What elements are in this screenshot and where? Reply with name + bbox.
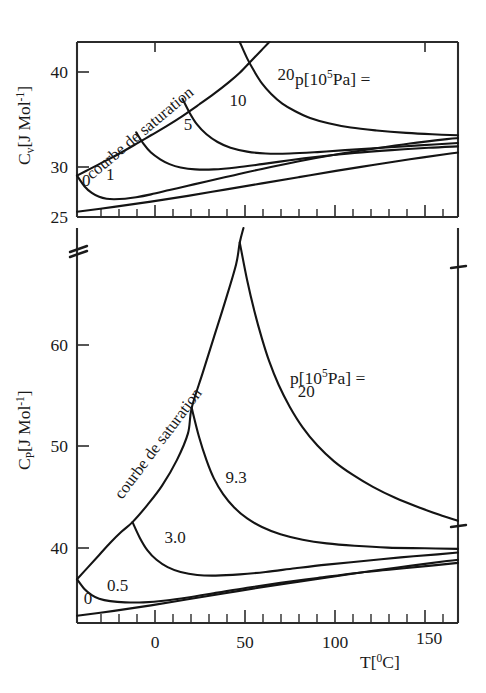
curve-top-p10	[182, 99, 458, 154]
thermodynamics-cv-cp-chart: 40 30 25	[0, 0, 486, 693]
axis-break-icon-right-2	[451, 525, 466, 527]
curve-label-top-10: 10	[229, 91, 246, 110]
xlabel-post: C]	[382, 652, 400, 672]
bottom-xtick-label-100: 100	[322, 632, 349, 652]
bottom-ylabel-base: C	[14, 458, 34, 470]
svg-text:Cv[J Mol-1]: Cv[J Mol-1]	[14, 86, 36, 165]
top-ytick-label-40: 40	[51, 62, 69, 82]
bottom-xtick-label-50: 50	[236, 632, 254, 652]
top-panel-xticks	[101, 205, 443, 217]
figure-root: 40 30 25	[0, 0, 486, 693]
bottom-ytick-label-50: 50	[51, 436, 69, 456]
bottom-xtick-label-0: 0	[151, 632, 160, 652]
top-ylabel-sup: -1	[14, 92, 26, 102]
top-ylabel-rest: [J Mol	[14, 101, 34, 147]
legend-bottom-pre: p[10	[290, 368, 322, 388]
curve-top-p5	[136, 132, 458, 169]
axis-break-icon	[70, 246, 87, 257]
xlabel-pre: T[	[360, 652, 377, 672]
bottom-panel: 60 50 40	[14, 228, 466, 672]
bottom-panel-yticks	[77, 345, 89, 548]
legend-bottom-post: Pa] =	[328, 368, 366, 388]
curve-bottom-sat	[77, 228, 243, 579]
curve-label-bottom-05: 0.5	[107, 576, 128, 595]
bottom-ylabel-sup: -1	[14, 396, 26, 406]
curve-label-bottom-0: 0	[84, 589, 93, 608]
axis-break-icon-right	[451, 266, 466, 268]
curve-top-p1	[77, 153, 458, 212]
top-panel-ylabel: Cv[J Mol-1]	[14, 86, 36, 165]
bottom-panel-frame	[77, 228, 458, 623]
saturation-label-bottom: courbe de saturation	[110, 384, 206, 502]
curve-label-bottom-93: 9.3	[225, 468, 246, 487]
bottom-xtick-label-150: 150	[416, 628, 443, 648]
top-ylabel-end: ]	[14, 86, 34, 92]
legend-title-bottom: p[105Pa] =	[290, 367, 366, 388]
bottom-ylabel-end: ]	[14, 390, 34, 396]
bottom-ytick-label-60: 60	[51, 335, 69, 355]
top-ylabel-base: C	[14, 153, 34, 165]
svg-text:CP[J Mol-1]: CP[J Mol-1]	[14, 390, 36, 470]
top-ytick-label-25: 25	[51, 207, 69, 227]
top-panel-topticks	[155, 42, 425, 52]
curve-label-top-20: 20	[278, 65, 295, 84]
top-ytick-label-30: 30	[51, 157, 69, 177]
top-panel-yticks	[77, 72, 89, 217]
bottom-ylabel-rest: [J Mol	[14, 406, 34, 452]
legend-title-top: p[105Pa] =	[295, 68, 371, 89]
saturation-label-bottom-text: courbe de saturation	[110, 384, 206, 502]
bottom-panel-curves	[77, 228, 458, 616]
curve-label-bottom-30: 3.0	[164, 528, 185, 547]
legend-top-pre: p[10	[295, 69, 327, 89]
top-panel: 40 30 25	[14, 42, 458, 227]
bottom-panel-xticks	[101, 610, 443, 623]
curve-label-top-5: 5	[184, 115, 193, 134]
bottom-xlabel: T[0C]	[360, 652, 400, 672]
bottom-panel-ylabel: CP[J Mol-1]	[14, 390, 36, 470]
curve-bottom-p05	[77, 563, 458, 603]
bottom-ytick-label-40: 40	[51, 538, 69, 558]
legend-top-post: Pa] =	[333, 69, 371, 89]
